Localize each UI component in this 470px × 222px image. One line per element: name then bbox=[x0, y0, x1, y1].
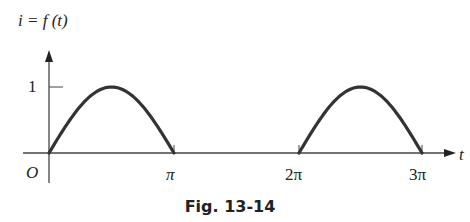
x-tick-label-pi: π bbox=[166, 165, 175, 184]
x-tick-label-3pi: 3π bbox=[409, 165, 427, 184]
origin-label: O bbox=[26, 163, 38, 182]
curve-arc-2 bbox=[299, 87, 422, 153]
figure-caption: Fig. 13-14 bbox=[185, 197, 276, 216]
x-axis-label: t bbox=[459, 145, 465, 164]
y-axis-arrow-icon bbox=[45, 50, 53, 62]
x-axis-arrow-icon bbox=[444, 149, 456, 157]
y-tick-label-1: 1 bbox=[28, 77, 37, 96]
y-axis-label: i = f (t) bbox=[18, 11, 68, 30]
curve-arc-1 bbox=[49, 87, 174, 153]
x-tick-label-2pi: 2π bbox=[285, 165, 303, 184]
chart: i = f (t) 1 O π 2π 3π t Fig. 13-14 bbox=[0, 0, 470, 222]
